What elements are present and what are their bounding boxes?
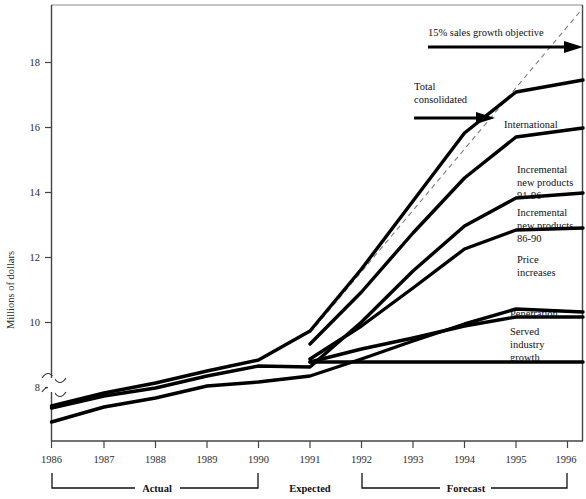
y-tick-label-12: 12 xyxy=(30,252,41,263)
y-axis-ticks xyxy=(45,63,52,388)
series-label-served-line3: growth xyxy=(510,352,540,363)
series-label-served-line2: industry xyxy=(510,339,545,350)
series-label-inc-new-86-90-line1: Incremental xyxy=(517,207,567,218)
series-line-price-increases xyxy=(52,309,584,422)
y-tick-label-8: 8 xyxy=(35,382,40,393)
total-consolidated-label-line2: consolidated xyxy=(414,94,468,105)
total-consolidated-label-line1: Total xyxy=(414,81,436,92)
total-consolidated-arrow-icon xyxy=(414,112,495,124)
series-label-inc-new-91-96-line1: Incremental xyxy=(517,164,567,175)
x-tick-label-1988: 1988 xyxy=(145,454,166,465)
series-label-served-line1: Served xyxy=(510,326,540,337)
y-tick-label-16: 16 xyxy=(30,122,41,133)
series-label-price-increases-line1: Price xyxy=(517,254,539,265)
x-tick-label-1995: 1995 xyxy=(506,454,527,465)
y-axis-title: Millions of dollars xyxy=(5,251,16,329)
x-tick-label-1992: 1992 xyxy=(351,454,372,465)
objective-arrow-icon xyxy=(428,41,583,53)
series-label-inc-new-91-96-line3: 91-96 xyxy=(517,190,542,201)
y-axis-break-icon xyxy=(42,374,66,397)
x-tick-label-1986: 1986 xyxy=(41,454,62,465)
x-tick-label-1990: 1990 xyxy=(248,454,269,465)
x-axis-ticks xyxy=(52,441,568,448)
series-label-inc-new-86-90-line3: 86-90 xyxy=(517,233,542,244)
x-tick-label-1991: 1991 xyxy=(300,454,321,465)
x-tick-label-1996: 1996 xyxy=(556,454,577,465)
series-line-incremental-new-products-91-96 xyxy=(52,193,584,408)
y-tick-label-10: 10 xyxy=(30,317,41,328)
period-label-expected: Expected xyxy=(289,483,331,494)
y-tick-label-18: 18 xyxy=(30,57,41,68)
x-tick-label-1987: 1987 xyxy=(94,454,115,465)
x-tick-label-1994: 1994 xyxy=(454,454,476,465)
series-label-inc-new-86-90-line2: new products xyxy=(517,220,573,231)
period-label-actual: Actual xyxy=(142,483,172,494)
y-tick-label-14: 14 xyxy=(30,187,41,198)
chart-canvas: 18 16 14 12 10 8 Millions of dollars xyxy=(0,0,586,499)
sales-growth-chart: 18 16 14 12 10 8 Millions of dollars xyxy=(0,0,586,499)
series-label-international: International xyxy=(504,119,558,130)
period-label-forecast: Forecast xyxy=(447,483,486,494)
series-label-price-increases-line2: increases xyxy=(517,267,555,278)
x-tick-label-1989: 1989 xyxy=(197,454,218,465)
x-tick-label-1993: 1993 xyxy=(403,454,424,465)
series-label-inc-new-91-96-line2: new products xyxy=(517,177,573,188)
series-label-penetration: Penetration xyxy=(510,308,559,319)
objective-annotation-label: 15% sales growth objective xyxy=(428,27,544,38)
